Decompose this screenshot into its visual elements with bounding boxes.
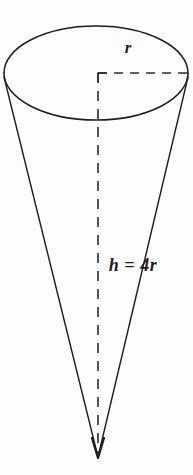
height-label: h = 4r bbox=[109, 256, 157, 274]
radius-label: r bbox=[125, 39, 132, 56]
cone-slant-left bbox=[4, 77, 98, 457]
cone-diagram: r h = 4r bbox=[0, 0, 193, 475]
right-angle-marker bbox=[98, 73, 107, 82]
ellipse-top-back-arc bbox=[4, 26, 188, 73]
ellipse-top-front-arc bbox=[4, 73, 188, 120]
cone-drawing bbox=[0, 0, 193, 475]
